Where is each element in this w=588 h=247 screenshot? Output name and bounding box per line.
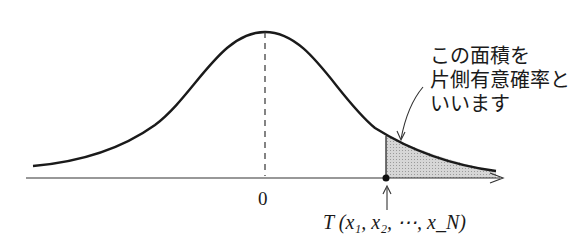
annotation-pointer-line [401, 87, 423, 139]
statistic-point [383, 175, 390, 182]
distribution-diagram [0, 0, 588, 247]
statistic-label: T (x₁, x₂, ⋯, x_N) [323, 210, 466, 234]
annotation-text: この面積を 片側有意確率と いいます [430, 44, 570, 116]
annotation-line-3: いいます [430, 92, 570, 116]
annotation-arrow-icon [397, 131, 405, 140]
annotation-line-1: この面積を [430, 44, 570, 68]
center-label: 0 [258, 188, 268, 210]
annotation-line-2: 片側有意確率と [430, 68, 570, 92]
